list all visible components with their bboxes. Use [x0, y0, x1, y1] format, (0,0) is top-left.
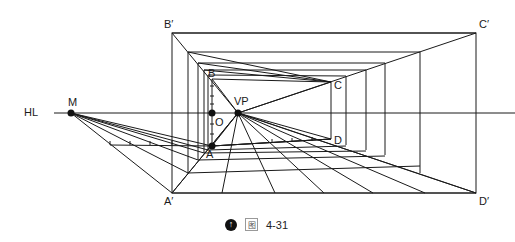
label-o: O — [215, 117, 224, 128]
figure-number: 4-31 — [266, 219, 288, 231]
label-a-prime: A′ — [164, 196, 173, 207]
label-c-prime: C′ — [479, 19, 489, 30]
label-b-prime: B′ — [164, 19, 173, 30]
figure-prefix: 图 — [245, 218, 258, 231]
perspective-diagram — [0, 0, 515, 242]
point-VP — [235, 110, 242, 117]
arrow-up-circle-icon: ↑ — [225, 219, 237, 231]
label-a: A — [206, 149, 213, 160]
point-M — [68, 110, 75, 117]
label-b: B — [208, 68, 215, 79]
label-hl: HL — [24, 107, 38, 118]
label-c: C — [334, 80, 342, 91]
label-vp: VP — [234, 96, 249, 107]
label-d: D — [334, 135, 342, 146]
figure-caption: ↑ 图 4-31 — [225, 218, 288, 231]
label-d-prime: D′ — [479, 196, 489, 207]
label-m: M — [68, 97, 77, 108]
